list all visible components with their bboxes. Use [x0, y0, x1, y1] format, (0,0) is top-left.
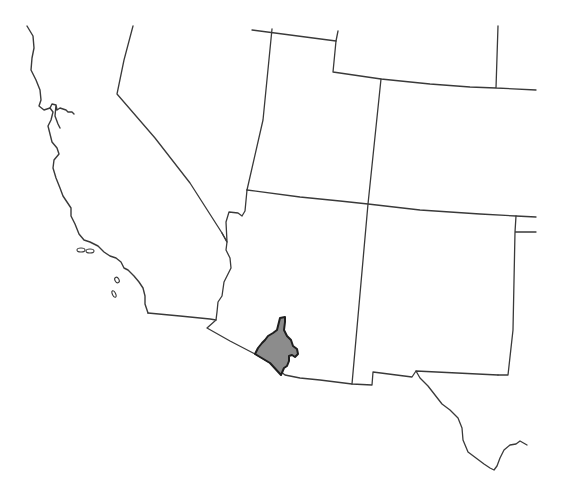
ca-az-border [216, 190, 247, 320]
ca-nv-border [117, 26, 227, 242]
ut-co-border [352, 79, 381, 384]
nm-tx-border [498, 216, 536, 375]
us-mexico-border-west [148, 313, 498, 385]
island [86, 249, 94, 253]
island [114, 276, 120, 283]
highlighted-range [255, 317, 298, 375]
island [77, 248, 85, 252]
rio-grande [416, 371, 527, 470]
ut-wy-border [333, 26, 536, 90]
map-canvas [0, 0, 566, 502]
ut-az-co-nm-border [247, 190, 536, 217]
california-coastline [27, 26, 148, 313]
island [111, 290, 117, 298]
nv-ut-border [247, 29, 338, 190]
range-map [0, 0, 566, 502]
sf-bay [50, 104, 74, 128]
